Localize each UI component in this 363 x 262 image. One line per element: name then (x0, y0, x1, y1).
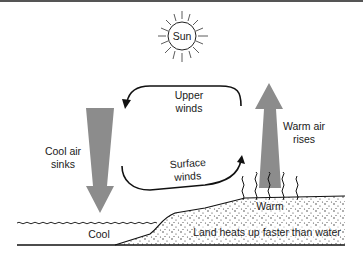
cool-air-sinks-arrow (86, 108, 114, 213)
sea-breeze-diagram: Sun Upper winds Surface winds Cool air s… (0, 0, 363, 262)
sun-label: Sun (173, 30, 192, 42)
warm-air-label-line1: Warm air (283, 120, 326, 132)
cool-air-label-line1: Cool air (45, 145, 82, 157)
land-warm-label: Warm (256, 200, 284, 212)
water-cool-label: Cool (88, 228, 110, 240)
upper-winds-label-line1: Upper (175, 89, 204, 101)
surface-winds-label-line1: Surface (169, 156, 206, 171)
cool-air-label-line2: sinks (51, 158, 75, 170)
land-caption-label: Land heats up faster than water (193, 226, 341, 238)
upper-winds-label-line2: winds (175, 102, 203, 114)
warm-air-label-line2: rises (293, 133, 315, 145)
surface-winds-label-line2: winds (173, 169, 202, 183)
water-surface (17, 222, 157, 224)
